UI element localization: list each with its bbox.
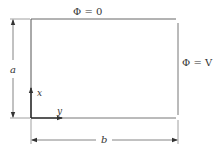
dimension-b-label: b — [101, 134, 107, 145]
y-axis-label: y — [56, 106, 63, 116]
top-boundary-label: Φ = 0 — [73, 6, 102, 17]
right-boundary-label: Φ = V — [182, 57, 213, 68]
diagram-canvas: Φ = 0 Φ = V a b x y — [0, 0, 220, 150]
dimension-a-label: a — [10, 64, 16, 75]
x-axis-label: x — [37, 88, 42, 98]
